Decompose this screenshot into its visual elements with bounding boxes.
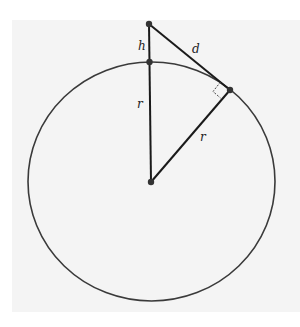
surface-top-point [146,59,152,65]
radius-to-tangent-line [151,90,230,182]
label-r-diagonal: r [200,130,207,144]
diagram-canvas: h d r r [0,0,300,327]
tangent-point [227,87,233,93]
label-h: h [138,39,146,53]
label-r-vertical: r [137,97,144,111]
center-point [148,179,154,185]
label-d: d [192,42,200,56]
right-angle-marker [213,82,221,98]
geometry-figure: h d r r [0,0,300,327]
height-and-radius-line [149,24,151,182]
observer-point [146,21,152,27]
tangent-line-d [149,24,230,90]
